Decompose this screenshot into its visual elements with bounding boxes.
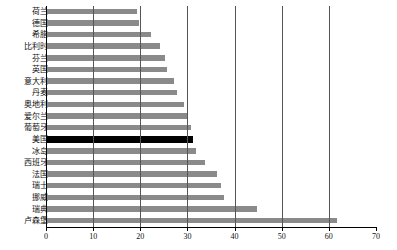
category-label-1: 德国: [4, 18, 48, 29]
bar-row: 英国: [0, 64, 397, 76]
bar-16: [47, 195, 224, 200]
gridline-50: [282, 6, 283, 227]
category-label-0: 荷兰: [4, 6, 48, 17]
x-tick-0: [46, 228, 47, 231]
bar-17: [47, 206, 257, 211]
bar-row: 荷兰: [0, 6, 397, 18]
x-tick-label-70: 70: [361, 232, 391, 242]
x-tick-20: [140, 228, 141, 231]
bar-15: [47, 183, 221, 188]
bar-row: 希腊: [0, 29, 397, 41]
bar-row: 挪威: [0, 192, 397, 204]
bar-row: 瑞典: [0, 204, 397, 216]
category-label-15: 瑞士: [4, 180, 48, 191]
category-label-9: 爱尔兰: [4, 111, 48, 122]
bar-6: [47, 78, 174, 83]
bar-18: [47, 218, 337, 223]
bar-row: 美国: [0, 134, 397, 146]
category-label-17: 瑞典: [4, 204, 48, 215]
x-tick-50: [282, 228, 283, 231]
x-tick-label-0: 0: [31, 232, 61, 242]
bar-8: [47, 102, 184, 107]
category-label-16: 挪威: [4, 192, 48, 203]
bar-row: 葡萄牙: [0, 122, 397, 134]
x-tick-label-10: 10: [78, 232, 108, 242]
x-tick-60: [329, 228, 330, 231]
bar-chart: 荷兰德国希腊比利时芬兰英国意大利丹麦奥地利爱尔兰葡萄牙美国冰岛西班牙法国瑞士挪威…: [0, 0, 397, 250]
x-tick-40: [235, 228, 236, 231]
bar-row: 瑞士: [0, 180, 397, 192]
gridline-40: [235, 6, 236, 227]
bar-5: [47, 67, 167, 72]
gridline-30: [187, 6, 188, 227]
x-tick-30: [187, 228, 188, 231]
category-label-18: 卢森堡: [4, 215, 48, 226]
category-label-5: 英国: [4, 64, 48, 75]
category-label-6: 意大利: [4, 76, 48, 87]
category-label-2: 希腊: [4, 29, 48, 40]
bar-row: 爱尔兰: [0, 111, 397, 123]
bar-7: [47, 90, 177, 95]
bar-3: [47, 43, 160, 48]
bar-13: [47, 160, 205, 165]
bar-row: 德国: [0, 18, 397, 30]
x-tick-label-30: 30: [172, 232, 202, 242]
category-label-14: 法国: [4, 169, 48, 180]
x-tick-label-60: 60: [314, 232, 344, 242]
category-label-12: 冰岛: [4, 146, 48, 157]
bar-row: 芬兰: [0, 53, 397, 65]
bar-row: 比利时: [0, 41, 397, 53]
x-axis-line: [46, 227, 377, 228]
bar-10: [47, 125, 191, 130]
bar-row: 卢森堡: [0, 215, 397, 227]
bar-row: 意大利: [0, 76, 397, 88]
category-label-4: 芬兰: [4, 53, 48, 64]
x-tick-label-50: 50: [267, 232, 297, 242]
bar-11: [47, 136, 193, 142]
x-tick-label-20: 20: [125, 232, 155, 242]
x-tick-70: [376, 228, 377, 231]
bar-row: 奥地利: [0, 99, 397, 111]
bar-12: [47, 148, 196, 153]
category-label-13: 西班牙: [4, 157, 48, 168]
gridline-10: [93, 6, 94, 227]
bar-row: 西班牙: [0, 157, 397, 169]
bar-0: [47, 9, 137, 14]
bar-row: 法国: [0, 169, 397, 181]
category-label-8: 奥地利: [4, 99, 48, 110]
gridline-20: [140, 6, 141, 227]
bar-row: 丹麦: [0, 87, 397, 99]
x-tick-label-40: 40: [220, 232, 250, 242]
bar-row: 冰岛: [0, 146, 397, 158]
bar-4: [47, 55, 165, 60]
x-tick-10: [93, 228, 94, 231]
bar-9: [47, 113, 188, 118]
category-label-7: 丹麦: [4, 87, 48, 98]
category-label-11: 美国: [4, 134, 48, 145]
bar-14: [47, 171, 217, 176]
category-label-3: 比利时: [4, 41, 48, 52]
bar-2: [47, 32, 151, 37]
category-label-10: 葡萄牙: [4, 122, 48, 133]
gridline-60: [329, 6, 330, 227]
